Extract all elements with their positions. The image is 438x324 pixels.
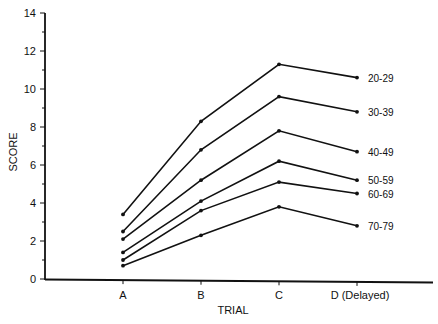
x-tick-label: D (Delayed) xyxy=(331,289,390,301)
data-point xyxy=(121,258,125,262)
data-point xyxy=(355,150,359,154)
data-point xyxy=(121,230,125,234)
data-point xyxy=(355,224,359,228)
data-point xyxy=(355,76,359,80)
data-point xyxy=(355,192,359,196)
data-point xyxy=(199,148,203,152)
data-point xyxy=(121,213,125,217)
x-tick-label: A xyxy=(119,289,127,301)
data-point xyxy=(277,205,281,209)
data-point xyxy=(355,110,359,114)
series-label: 30-39 xyxy=(368,107,394,118)
data-point xyxy=(199,178,203,182)
series-label: 50-59 xyxy=(368,175,394,186)
y-tick-label: 12 xyxy=(24,45,36,57)
x-axis: ABCD (Delayed) xyxy=(45,280,433,302)
data-point xyxy=(199,119,203,123)
data-point xyxy=(121,251,125,255)
y-tick-label: 4 xyxy=(30,197,36,209)
y-tick-label: 6 xyxy=(30,159,36,171)
series-label: 70-79 xyxy=(368,221,394,232)
y-tick-label: 14 xyxy=(24,7,36,19)
data-point xyxy=(199,233,203,237)
x-axis-title: TRIAL xyxy=(217,304,248,316)
data-point xyxy=(121,264,125,268)
series-label: 60-69 xyxy=(368,189,394,200)
line-chart: 02468101214 ABCD (Delayed) 20-2930-3940-… xyxy=(0,0,438,324)
data-point xyxy=(121,237,125,241)
series-50-59: 50-59 xyxy=(121,159,394,254)
series-label: 20-29 xyxy=(368,73,394,84)
series-line xyxy=(123,161,357,252)
data-point xyxy=(277,159,281,163)
y-tick-label: 2 xyxy=(30,235,36,247)
series-line xyxy=(123,97,357,232)
data-point xyxy=(199,199,203,203)
y-axis-title: SCORE xyxy=(7,132,19,171)
series-line xyxy=(123,64,357,214)
data-point xyxy=(277,62,281,66)
series-group: 20-2930-3940-4950-5960-6970-79 xyxy=(121,62,394,267)
y-tick-label: 10 xyxy=(24,83,36,95)
y-tick-label: 0 xyxy=(30,273,36,285)
x-tick-label: C xyxy=(275,289,283,301)
data-point xyxy=(199,209,203,213)
series-70-79: 70-79 xyxy=(121,205,394,268)
series-line xyxy=(123,207,357,266)
data-point xyxy=(277,180,281,184)
x-axis-line xyxy=(45,280,433,283)
series-line xyxy=(123,131,357,239)
x-tick-label: B xyxy=(197,289,204,301)
data-point xyxy=(355,178,359,182)
y-tick-label: 8 xyxy=(30,121,36,133)
series-label: 40-49 xyxy=(368,147,394,158)
data-point xyxy=(277,95,281,99)
series-30-39: 30-39 xyxy=(121,95,394,234)
data-point xyxy=(277,129,281,133)
y-axis: 02468101214 xyxy=(24,7,45,285)
